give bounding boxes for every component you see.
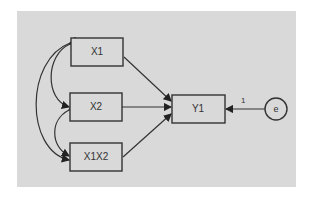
- path-coefficient-label: 1: [241, 96, 246, 105]
- covariance-x1-x1x2: [36, 43, 70, 160]
- path-diagram: X1 X2 X1X2 Y1 e 1: [0, 0, 311, 197]
- path-x1x2-y1: [123, 114, 171, 157]
- node-x1[interactable]: X1: [71, 38, 123, 66]
- node-x2[interactable]: X2: [70, 93, 122, 121]
- svg-text:X2: X2: [90, 101, 103, 112]
- svg-text:X1X2: X1X2: [84, 151, 109, 162]
- node-y1[interactable]: Y1: [172, 95, 225, 123]
- svg-text:Y1: Y1: [192, 103, 205, 114]
- node-x1x2[interactable]: X1X2: [70, 143, 122, 171]
- svg-text:X1: X1: [91, 46, 104, 57]
- covariance-x2-x1x2: [55, 110, 69, 156]
- node-e[interactable]: e: [265, 98, 287, 120]
- svg-text:e: e: [273, 104, 278, 114]
- path-x1-y1: [124, 57, 171, 101]
